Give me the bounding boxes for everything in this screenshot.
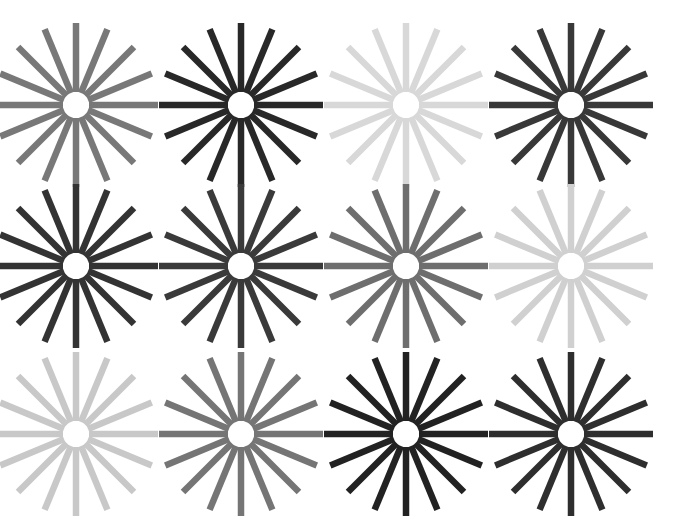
- starburst-cell-r2c3: [324, 184, 488, 348]
- starburst-cell-r3c2: [159, 352, 323, 516]
- starburst-hub: [231, 256, 251, 276]
- starburst-cell-r1c4: [489, 23, 653, 187]
- starburst-hub: [231, 95, 251, 115]
- starburst-hub: [396, 95, 416, 115]
- starburst-cell-r2c2: [159, 184, 323, 348]
- starburst-hub: [561, 256, 581, 276]
- starburst-hub: [561, 95, 581, 115]
- starburst-hub: [66, 95, 86, 115]
- starburst-grid: [0, 0, 687, 528]
- starburst-cell-r1c3: [324, 23, 488, 187]
- starburst-hub: [396, 424, 416, 444]
- starburst-hub: [66, 256, 86, 276]
- starburst-cell-r3c4: [489, 352, 653, 516]
- starburst-cell-r1c2: [159, 23, 323, 187]
- starburst-cell-r3c3: [324, 352, 488, 516]
- starburst-cell-r2c4: [489, 184, 653, 348]
- starburst-hub: [396, 256, 416, 276]
- starburst-hub: [561, 424, 581, 444]
- starburst-hub: [231, 424, 251, 444]
- starburst-hub: [66, 424, 86, 444]
- starburst-canvas: [0, 0, 687, 528]
